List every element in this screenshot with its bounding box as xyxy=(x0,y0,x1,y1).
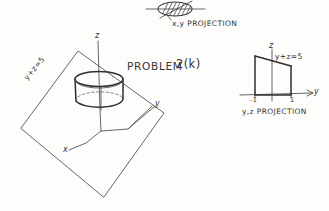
sketch-canvas xyxy=(0,0,329,211)
yz-axis-label-z: z xyxy=(269,41,274,50)
yz-tick-label-minus-1: -1 xyxy=(250,96,257,104)
problem-title-word: PROBLEM xyxy=(127,60,183,72)
axis-y-line xyxy=(101,106,155,131)
axis-label-x: x xyxy=(63,145,68,154)
xy-projection-figure xyxy=(146,1,205,20)
yz-projection-caption: y,z PROJECTION xyxy=(242,107,307,116)
xy-projection-caption: x,y PROJECTION xyxy=(172,19,237,28)
yz-line-equation-label: y+z=5 xyxy=(275,52,303,61)
yz-axis-label-y: y xyxy=(314,87,319,96)
plane-quadrilateral xyxy=(21,51,164,197)
axis-x-line xyxy=(69,131,101,150)
axis-label-z: z xyxy=(95,31,100,40)
problem-title-number: 2(k) xyxy=(176,57,201,71)
axis-label-y: y xyxy=(155,99,160,108)
yz-tick-label-1: 1 xyxy=(290,96,295,104)
worksheet-page: PROBLEM 2(k) y+z=5 z y x x,y PROJECTION … xyxy=(0,0,329,211)
